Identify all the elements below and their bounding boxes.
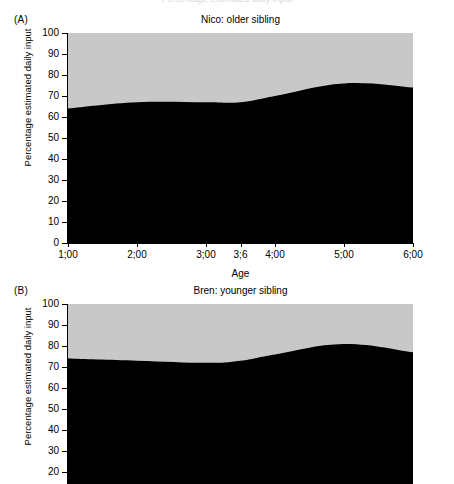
panel-b-yaxis-line: [67, 304, 68, 484]
panel-b: (B) Bren: younger sibling Percentage est…: [0, 283, 454, 484]
panel-a-plot-area: [68, 33, 413, 243]
ytick-mark: [62, 159, 67, 160]
xtick-mark: [241, 243, 242, 247]
ytick-label: 100: [18, 28, 59, 38]
ytick-label: 30: [18, 175, 59, 185]
panel-a-area-svg: [68, 33, 413, 243]
panel-b-plot-area: [68, 304, 413, 484]
panel-b-lower-band: [68, 344, 413, 484]
ytick-mark: [62, 451, 67, 452]
ytick-mark: [62, 367, 67, 368]
xtick-mark: [344, 243, 345, 247]
xtick-mark: [275, 243, 276, 247]
xtick-mark: [206, 243, 207, 247]
ytick-label: 60: [18, 112, 59, 122]
ytick-mark: [62, 325, 67, 326]
cut-off-header-text: Percentage estimated daily input: [0, 0, 454, 6]
ytick-mark: [62, 243, 67, 244]
ytick-label: 0: [18, 238, 59, 248]
ytick-mark: [62, 346, 67, 347]
ytick-label: 50: [18, 133, 59, 143]
ytick-label: 70: [18, 362, 59, 372]
ytick-mark: [62, 180, 67, 181]
xtick-label: 5;00: [321, 249, 367, 260]
ytick-label: 20: [18, 467, 59, 477]
ytick-label: 90: [18, 49, 59, 59]
ytick-mark: [62, 138, 67, 139]
ytick-label: 90: [18, 320, 59, 330]
figure: Percentage estimated daily input (A) Nic…: [0, 0, 454, 484]
panel-b-area-svg: [68, 304, 413, 484]
ytick-mark: [62, 96, 67, 97]
xtick-label: 2;00: [114, 249, 160, 260]
xtick-mark: [137, 243, 138, 247]
ytick-label: 20: [18, 196, 59, 206]
panel-a: (A) Nico: older sibling Percentage estim…: [0, 12, 454, 280]
ytick-label: 70: [18, 91, 59, 101]
ytick-label: 80: [18, 341, 59, 351]
ytick-label: 80: [18, 70, 59, 80]
xtick-mark: [413, 243, 414, 247]
ytick-mark: [62, 388, 67, 389]
panel-b-yaxis-title: Percentage estimated daily input: [22, 287, 33, 467]
xtick-label: 4;00: [252, 249, 298, 260]
panel-a-lower-band: [68, 83, 413, 243]
ytick-label: 50: [18, 404, 59, 414]
ytick-label: 10: [18, 217, 59, 227]
ytick-mark: [62, 409, 67, 410]
ytick-mark: [62, 472, 67, 473]
ytick-mark: [62, 75, 67, 76]
ytick-label: 100: [18, 299, 59, 309]
panel-a-title: Nico: older sibling: [68, 14, 413, 25]
panel-a-yaxis-line: [67, 33, 68, 244]
ytick-label: 30: [18, 446, 59, 456]
ytick-mark: [62, 201, 67, 202]
ytick-mark: [62, 222, 67, 223]
panel-a-xaxis-title: Age: [68, 268, 413, 279]
xtick-label: 6;00: [390, 249, 436, 260]
ytick-mark: [62, 33, 67, 34]
ytick-label: 40: [18, 425, 59, 435]
panel-b-title: Bren: younger sibling: [68, 285, 413, 296]
ytick-mark: [62, 117, 67, 118]
xtick-mark: [68, 243, 69, 247]
ytick-label: 40: [18, 154, 59, 164]
ytick-label: 60: [18, 383, 59, 393]
ytick-mark: [62, 304, 67, 305]
ytick-mark: [62, 430, 67, 431]
ytick-mark: [62, 54, 67, 55]
xtick-label: 1;00: [45, 249, 91, 260]
